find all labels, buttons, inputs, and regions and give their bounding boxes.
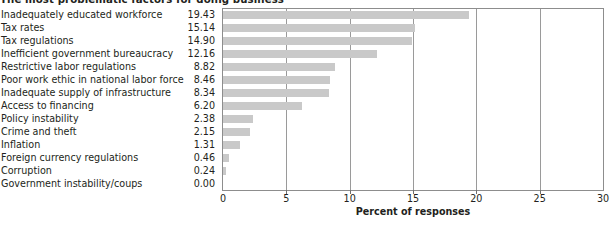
category-label-cell: Crime and theft (0, 125, 186, 138)
leader-line (186, 99, 188, 112)
value-label: 1.31 (188, 138, 216, 151)
category-label: Access to financing (1, 100, 96, 111)
category-label-cell: Corruption (0, 164, 186, 177)
chart-title: The most problematic factors for doing b… (0, 0, 284, 5)
category-label-cell: Access to financing (0, 99, 186, 112)
category-label-cell: Restrictive labor regulations (0, 60, 186, 73)
category-label: Crime and theft (1, 126, 78, 137)
leader-line (186, 151, 188, 164)
bar (223, 11, 469, 19)
category-label: Policy instability (1, 113, 81, 124)
value-label: 8.46 (188, 73, 216, 86)
category-label-cell: Foreign currency regulations (0, 151, 186, 164)
leader-line (186, 112, 188, 125)
plot-area (222, 8, 604, 191)
value-label: 15.14 (188, 21, 216, 34)
category-label-cell: Inefficient government bureaucracy (0, 47, 186, 60)
category-value-row: Inflation1.31 (0, 138, 216, 151)
bar-row (223, 113, 603, 126)
bar-row (223, 22, 603, 35)
bar-row (223, 126, 603, 139)
category-label-cell: Poor work ethic in national labor force (0, 73, 186, 86)
bar (223, 167, 226, 175)
bar-row (223, 139, 603, 152)
value-label: 14.90 (188, 34, 216, 47)
bar-row (223, 87, 603, 100)
category-label: Government instability/coups (1, 178, 144, 189)
leader-line (186, 86, 188, 99)
bar (223, 102, 302, 110)
leader-line (186, 125, 188, 138)
value-label: 19.43 (188, 8, 216, 21)
category-value-row: Tax regulations14.90 (0, 34, 216, 47)
bar-row (223, 152, 603, 165)
category-label: Inadequately educated workforce (1, 9, 164, 20)
bar-row (223, 100, 603, 113)
leader-line (186, 60, 188, 73)
x-tick-label: 10 (344, 193, 356, 204)
leader-line (186, 8, 188, 21)
category-label-cell: Inadequately educated workforce (0, 8, 186, 21)
bar-row (223, 61, 603, 74)
category-value-row: Corruption0.24 (0, 164, 216, 177)
x-axis-title: Percent of responses (222, 206, 604, 217)
value-label: 8.34 (188, 86, 216, 99)
leader-line (186, 138, 188, 151)
category-label: Foreign currency regulations (1, 152, 140, 163)
category-label-cell: Policy instability (0, 112, 186, 125)
category-label: Restrictive labor regulations (1, 61, 138, 72)
bar (223, 89, 329, 97)
category-label: Inflation (1, 139, 42, 150)
category-value-row: Inadequately educated workforce19.43 (0, 8, 216, 21)
category-value-rows: Inadequately educated workforce19.43Tax … (0, 8, 216, 190)
category-label-cell: Inadequate supply of infrastructure (0, 86, 186, 99)
x-tick-label: 30 (597, 193, 609, 204)
x-tick-label: 25 (534, 193, 546, 204)
bar-row (223, 48, 603, 61)
bar (223, 128, 250, 136)
bar-series (223, 9, 603, 190)
category-label: Tax rates (1, 22, 46, 33)
value-label: 2.15 (188, 125, 216, 138)
value-label: 0.00 (188, 177, 216, 190)
category-value-row: Restrictive labor regulations8.82 (0, 60, 216, 73)
bar (223, 141, 240, 149)
category-label: Corruption (1, 165, 54, 176)
category-value-list: Inadequately educated workforce19.43Tax … (0, 8, 216, 190)
bar-row (223, 165, 603, 178)
category-value-row: Access to financing6.20 (0, 99, 216, 112)
category-value-row: Inefficient government bureaucracy12.16 (0, 47, 216, 60)
category-value-row: Tax rates15.14 (0, 21, 216, 34)
leader-line (186, 34, 188, 47)
bar (223, 76, 330, 84)
bar (223, 115, 253, 123)
bar-row (223, 9, 603, 22)
x-tick-label: 20 (470, 193, 482, 204)
category-value-row: Policy instability2.38 (0, 112, 216, 125)
category-label-cell: Inflation (0, 138, 186, 151)
leader-line (186, 164, 188, 177)
x-tick-label: 0 (220, 193, 226, 204)
category-label: Inefficient government bureaucracy (1, 48, 175, 59)
category-label-cell: Tax rates (0, 21, 186, 34)
bar-row (223, 35, 603, 48)
leader-line (186, 47, 188, 60)
bar-row (223, 74, 603, 87)
leader-line (186, 21, 188, 34)
chart-container: The most problematic factors for doing b… (0, 0, 616, 225)
category-value-row: Poor work ethic in national labor force8… (0, 73, 216, 86)
category-value-row: Inadequate supply of infrastructure8.34 (0, 86, 216, 99)
category-label: Inadequate supply of infrastructure (1, 87, 173, 98)
bar (223, 63, 335, 71)
category-label: Tax regulations (1, 35, 76, 46)
value-label: 12.16 (188, 47, 216, 60)
x-tick-label: 15 (407, 193, 419, 204)
bar (223, 24, 415, 32)
category-value-row: Foreign currency regulations0.46 (0, 151, 216, 164)
value-label: 0.46 (188, 151, 216, 164)
leader-line (186, 177, 188, 190)
x-tick-label: 5 (283, 193, 289, 204)
category-value-row: Government instability/coups0.00 (0, 177, 216, 190)
category-label: Poor work ethic in national labor force (1, 74, 186, 85)
value-label: 8.82 (188, 60, 216, 73)
